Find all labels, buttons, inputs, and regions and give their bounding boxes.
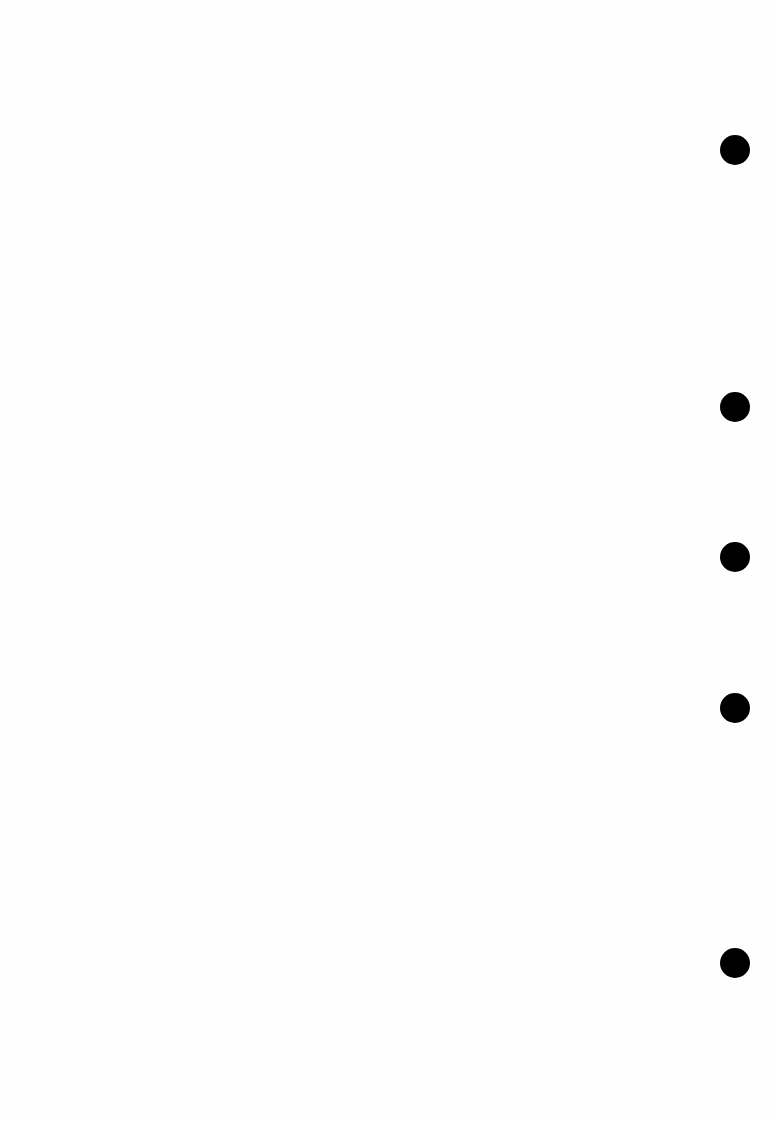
punch-hole-2 xyxy=(720,392,750,422)
punch-hole-1 xyxy=(720,135,750,165)
punch-hole-4 xyxy=(720,693,750,723)
punch-hole-5 xyxy=(720,948,750,978)
punch-hole-3 xyxy=(720,542,750,572)
